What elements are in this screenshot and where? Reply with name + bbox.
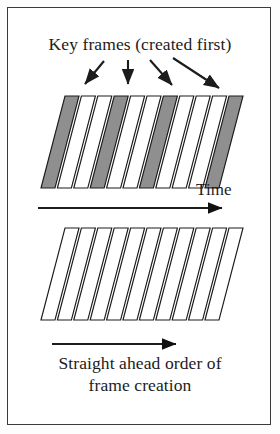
arrow-to-keyframe-4 bbox=[173, 58, 219, 88]
keyframe-callout-arrows bbox=[85, 58, 219, 88]
arrow-to-keyframe-1 bbox=[85, 61, 104, 84]
time-axis-label: Time bbox=[196, 180, 262, 200]
caption-line-2: frame creation bbox=[14, 374, 266, 396]
bottom-caption: Straight ahead order of frame creation bbox=[14, 352, 266, 396]
key-frame-stack bbox=[41, 96, 243, 188]
key-frames-title: Key frames (created first) bbox=[14, 34, 266, 54]
arrow-to-keyframe-3 bbox=[150, 60, 172, 85]
figure-container: Key frames (created first) Time Straight… bbox=[0, 0, 280, 434]
straight-ahead-frame-stack bbox=[41, 228, 243, 320]
caption-line-1: Straight ahead order of bbox=[14, 352, 266, 374]
